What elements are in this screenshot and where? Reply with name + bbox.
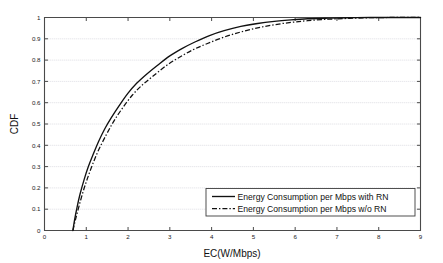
x-tick-label: 8 (377, 233, 381, 240)
legend: Energy Consumption per Mbps with RN Ener… (206, 189, 415, 217)
cdf-chart: 0123456789 00.10.20.30.40.50.60.70.80.91… (0, 0, 443, 263)
gridlines (45, 39, 421, 209)
x-tick-label: 0 (43, 233, 47, 240)
legend-label-wo-rn: Energy Consumption per Mbps w/o RN (238, 204, 387, 214)
y-tick-label: 0.3 (32, 163, 41, 170)
y-tick-label: 0.7 (32, 78, 41, 85)
y-tick-label: 0.6 (32, 99, 41, 106)
x-tick-label: 1 (85, 233, 89, 240)
legend-label-with-rn: Energy Consumption per Mbps with RN (238, 192, 389, 202)
y-tick-label: 0.5 (32, 120, 41, 127)
y-tick-label: 0 (37, 227, 41, 234)
x-tick-label: 4 (210, 233, 214, 240)
y-tick-label: 1 (37, 14, 41, 21)
y-tick-label: 0.4 (32, 142, 41, 149)
y-tick-label: 0.9 (32, 35, 41, 42)
y-tick-label: 0.8 (32, 56, 41, 63)
x-tick-label: 3 (168, 233, 172, 240)
x-axis-title: EC(W/Mbps) (203, 248, 260, 259)
y-axis-tick-labels: 00.10.20.30.40.50.60.70.80.91 (32, 14, 41, 234)
x-tick-label: 2 (126, 233, 130, 240)
x-axis-tick-labels: 0123456789 (43, 233, 423, 240)
x-tick-label: 7 (335, 233, 339, 240)
y-tick-label: 0.2 (32, 184, 41, 191)
x-tick-label: 5 (252, 233, 256, 240)
chart-page: 0123456789 00.10.20.30.40.50.60.70.80.91… (0, 0, 443, 263)
x-tick-label: 9 (419, 233, 423, 240)
y-axis-title: CDF (9, 114, 20, 135)
y-tick-label: 0.1 (32, 205, 41, 212)
x-tick-label: 6 (293, 233, 297, 240)
